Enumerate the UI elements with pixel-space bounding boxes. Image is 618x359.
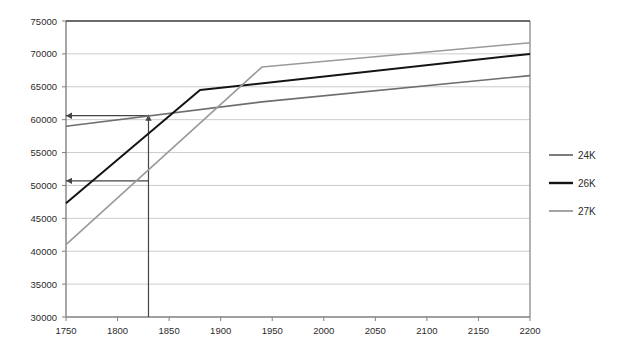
x-tick-label: 2150 [468, 325, 489, 336]
x-tick-label: 2200 [519, 325, 540, 336]
y-tick-label: 70000 [31, 48, 57, 59]
chart-container: 3000035000400004500050000550006000065000… [0, 0, 618, 359]
line-chart: 3000035000400004500050000550006000065000… [0, 0, 618, 359]
x-tick-label: 1850 [159, 325, 180, 336]
y-tick-label: 55000 [31, 147, 57, 158]
x-tick-label: 2000 [313, 325, 334, 336]
y-tick-label: 40000 [31, 246, 57, 257]
x-tick-label: 1750 [55, 325, 76, 336]
x-tick-label: 2100 [416, 325, 437, 336]
x-tick-label: 1900 [210, 325, 231, 336]
x-tick-label: 1950 [262, 325, 283, 336]
y-tick-label: 65000 [31, 81, 57, 92]
x-tick-label: 2050 [365, 325, 386, 336]
y-tick-label: 45000 [31, 213, 57, 224]
y-tick-label: 30000 [31, 312, 57, 323]
y-tick-label: 35000 [31, 279, 57, 290]
x-tick-label: 1800 [107, 325, 128, 336]
y-tick-label: 60000 [31, 114, 57, 125]
y-tick-label: 75000 [31, 16, 57, 27]
y-tick-label: 50000 [31, 180, 57, 191]
legend-label-26k: 26K [578, 178, 596, 189]
legend-label-27k: 27K [578, 206, 596, 217]
legend-label-24k: 24K [578, 150, 596, 161]
